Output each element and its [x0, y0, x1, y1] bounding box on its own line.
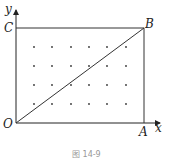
label-C: C — [4, 21, 13, 35]
label-A: A — [138, 125, 148, 139]
label-O: O — [3, 117, 13, 131]
diagram: y C B O A x 图 14-9 — [0, 0, 170, 158]
diagonal-OB — [16, 28, 144, 123]
label-B: B — [144, 17, 154, 31]
label-x: x — [155, 121, 162, 135]
label-y: y — [4, 2, 12, 16]
figure-caption: 图 14-9 — [72, 150, 101, 158]
